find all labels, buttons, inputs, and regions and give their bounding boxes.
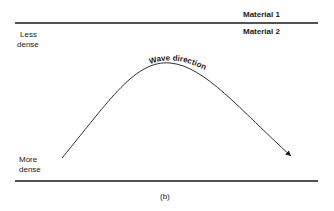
material-2-label: Material 2 (243, 27, 280, 37)
wave-path-arrow (62, 63, 291, 158)
figure-caption: (b) (160, 192, 170, 202)
less-dense-label-line1: Less (20, 30, 37, 40)
material-1-label: Material 1 (243, 10, 280, 20)
less-dense-label-line2: dense (17, 40, 39, 50)
diagram-canvas: Wave direction (0, 0, 334, 211)
more-dense-label-line1: More (19, 155, 37, 165)
more-dense-label-line2: dense (19, 165, 41, 175)
wave-direction-label: Wave direction (148, 53, 208, 71)
